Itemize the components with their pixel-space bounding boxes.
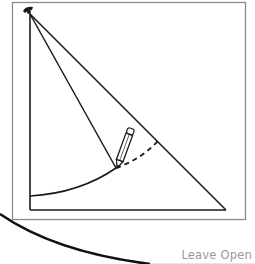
large-outer-curve <box>0 214 150 264</box>
pencil-icon <box>114 127 135 169</box>
diagram-frame <box>13 3 246 220</box>
right-triangle <box>30 14 226 210</box>
solid-arc <box>30 168 116 196</box>
leave-open-button[interactable]: Leave Open <box>181 248 252 262</box>
compass-pivot-icon <box>23 7 33 14</box>
compass-leg <box>30 14 116 168</box>
compass-diagram <box>0 0 255 264</box>
triangle-hypotenuse <box>30 14 226 210</box>
